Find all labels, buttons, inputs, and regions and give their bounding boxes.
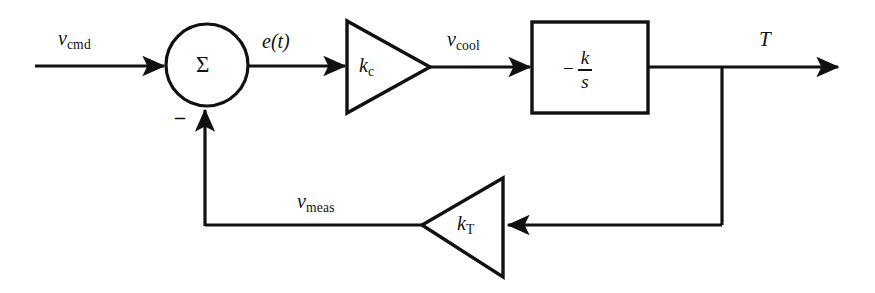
plant-denominator: s xyxy=(578,71,591,92)
label-controller-gain: kc xyxy=(359,55,374,78)
diagram-canvas xyxy=(0,0,875,293)
label-sensor-gain: kT xyxy=(457,213,474,236)
label-cooling-signal: vcool xyxy=(447,29,480,52)
feedback-sign-minus: – xyxy=(175,107,185,127)
label-command-signal: vcmd xyxy=(58,28,91,51)
block-diagram: vcmd Σ – e(t) kc vcool − k s T kT vmeas xyxy=(0,0,875,293)
label-error-signal: e(t) xyxy=(262,31,290,51)
label-output-signal: T xyxy=(759,29,771,50)
label-measured-signal: vmeas xyxy=(297,191,335,214)
summing-junction-symbol: Σ xyxy=(196,53,209,76)
plant-fraction: k s xyxy=(578,48,592,91)
plant-sign: − xyxy=(563,59,574,80)
plant-numerator: k xyxy=(578,48,592,69)
label-plant-transfer-function: − k s xyxy=(563,48,592,91)
